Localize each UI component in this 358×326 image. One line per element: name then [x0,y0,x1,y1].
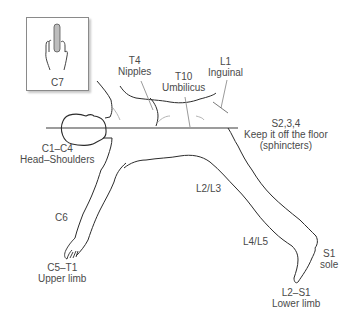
t4-label: T4 Nipples [118,55,151,77]
c1c4-label: C1–C4 Head–Shoulders [20,143,95,165]
l4l5-label: L4/L5 [243,236,268,247]
c5t1-level: C5–T1 [38,262,86,273]
neck-lower-outline [101,138,112,170]
l2s1-level: L2–S1 [272,287,320,298]
c5t1-region: Upper limb [38,273,86,284]
l2l3-label: L2/L3 [196,183,221,194]
s234-label: S2,3,4 Keep it off the floor (sphincters… [244,118,328,151]
hand-outline [65,238,78,259]
breast-outline [150,98,158,126]
s234-level: S2,3,4 [244,118,328,129]
c1c4-region: Head–Shoulders [20,154,95,165]
raised-arm-outline [97,81,112,118]
c7-label: C7 [27,77,88,88]
l2l3-level: L2/L3 [196,183,221,194]
s1-region: sole [320,259,338,270]
c6-label: C6 [55,212,68,223]
l1-pointer [221,80,227,108]
l1-level: L1 [208,56,243,67]
c7-inset: C7 [26,17,89,91]
t10-level: T10 [162,71,205,82]
inguinal-crease [213,102,228,113]
s234-note: (sphincters) [244,140,328,151]
s1-label: S1 sole [320,248,338,270]
c1c4-level: C1–C4 [20,143,95,154]
outstretched-arm-lower [76,163,126,256]
t4-region: Nipples [118,66,151,77]
l2s1-region: Lower limb [272,298,320,309]
c5t1-label: C5–T1 Upper limb [38,262,86,284]
outstretched-arm-upper [75,170,101,238]
s1-level: S1 [320,248,338,259]
t4-pointer [141,81,153,110]
l4l5-level: L4/L5 [243,236,268,247]
l2s1-label: L2–S1 Lower limb [272,287,320,309]
c6-level: C6 [55,212,68,223]
hand-middle-finger-icon [27,18,88,76]
hip-upper-outline [124,155,298,260]
t4-level: T4 [118,55,151,66]
t10-region: Umbilicus [162,82,205,93]
head-outline [61,114,106,145]
chest-shadow-2 [196,116,204,120]
s234-region: Keep it off the floor [244,129,328,140]
l1-label: L1 Inguinal [208,56,243,78]
l1-region: Inguinal [208,67,243,78]
chest-shadow-1 [158,116,170,122]
shoulder-shadow [113,108,120,120]
t10-label: T10 Umbilicus [162,71,205,93]
